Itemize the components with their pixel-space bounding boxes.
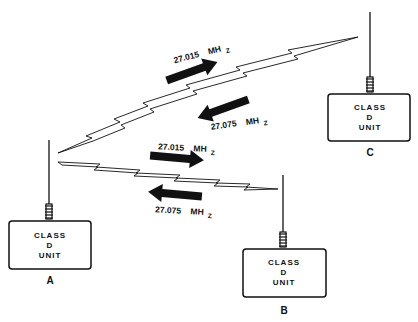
- antenna-c-coil-icon: [366, 77, 374, 92]
- svg-text:MH: MH: [190, 206, 204, 217]
- svg-text:27.075: 27.075: [155, 204, 182, 215]
- unit-b: CLASS D UNIT B: [243, 175, 326, 316]
- antenna-a-coil-icon: [45, 204, 53, 219]
- svg-text:Z: Z: [208, 212, 212, 219]
- arrow-b-to-a-icon: [147, 183, 202, 206]
- unit-a-line2: D: [47, 241, 54, 250]
- unit-a: CLASS D UNIT A: [9, 140, 91, 286]
- svg-text:Z: Z: [211, 149, 215, 156]
- unit-a-label: A: [46, 275, 53, 286]
- svg-text:MH: MH: [193, 143, 207, 154]
- unit-c-line3: UNIT: [359, 123, 382, 132]
- freq-label-a-b-receive: 27.075 MH Z: [155, 204, 213, 219]
- svg-text:Z: Z: [225, 46, 231, 54]
- unit-b-line1: CLASS: [268, 258, 300, 267]
- svg-text:MH: MH: [207, 44, 222, 57]
- lightning-bolt-a-b-icon: [58, 162, 278, 190]
- unit-a-line3: UNIT: [39, 251, 62, 260]
- unit-b-line3: UNIT: [273, 278, 296, 287]
- unit-c: CLASS D UNIT C: [328, 12, 410, 158]
- unit-b-line2: D: [281, 268, 288, 277]
- unit-c-line1: CLASS: [354, 103, 386, 112]
- unit-b-label: B: [280, 305, 287, 316]
- unit-c-line2: D: [367, 113, 374, 122]
- radio-link-diagram: CLASS D UNIT A CLASS D UNIT B CLASS D UN…: [0, 0, 418, 322]
- svg-text:27.015: 27.015: [172, 49, 200, 65]
- svg-text:Z: Z: [263, 119, 268, 126]
- unit-a-line1: CLASS: [34, 231, 66, 240]
- freq-label-a-c-receive: 27.075 MH Z: [210, 114, 268, 134]
- svg-text:MH: MH: [245, 115, 259, 127]
- freq-label-a-c-transmit: 27.015 MH Z: [172, 42, 230, 67]
- unit-c-label: C: [366, 147, 373, 158]
- antenna-b-coil-icon: [279, 232, 287, 247]
- svg-text:27.075: 27.075: [210, 118, 237, 132]
- svg-text:27.015: 27.015: [158, 141, 185, 152]
